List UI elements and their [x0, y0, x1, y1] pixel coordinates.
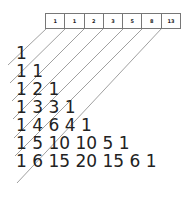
pascal-row-1: 1: [16, 45, 27, 62]
pascal-row-7: 1 6 15 20 15 6 1: [16, 153, 157, 170]
pascal-row-4: 1 3 3 1: [16, 99, 75, 116]
fibonacci-sum-boxes: 1 1 2 3 5 8 13: [46, 13, 181, 28]
sum-box: 3: [103, 13, 123, 29]
pascal-row-2: 1 1: [16, 63, 43, 80]
pascal-row-3: 1 2 1: [16, 81, 59, 98]
sum-box: 1: [64, 13, 84, 29]
sum-box: 8: [141, 13, 161, 29]
sum-box: 2: [84, 13, 104, 29]
pascal-row-6: 1 5 10 10 5 1: [16, 135, 130, 152]
sum-box: 5: [122, 13, 142, 29]
diagonal-line-1: [8, 28, 47, 65]
sum-box: 1: [45, 13, 65, 29]
pascal-row-5: 1 4 6 4 1: [16, 117, 92, 134]
sum-box: 13: [161, 13, 181, 29]
